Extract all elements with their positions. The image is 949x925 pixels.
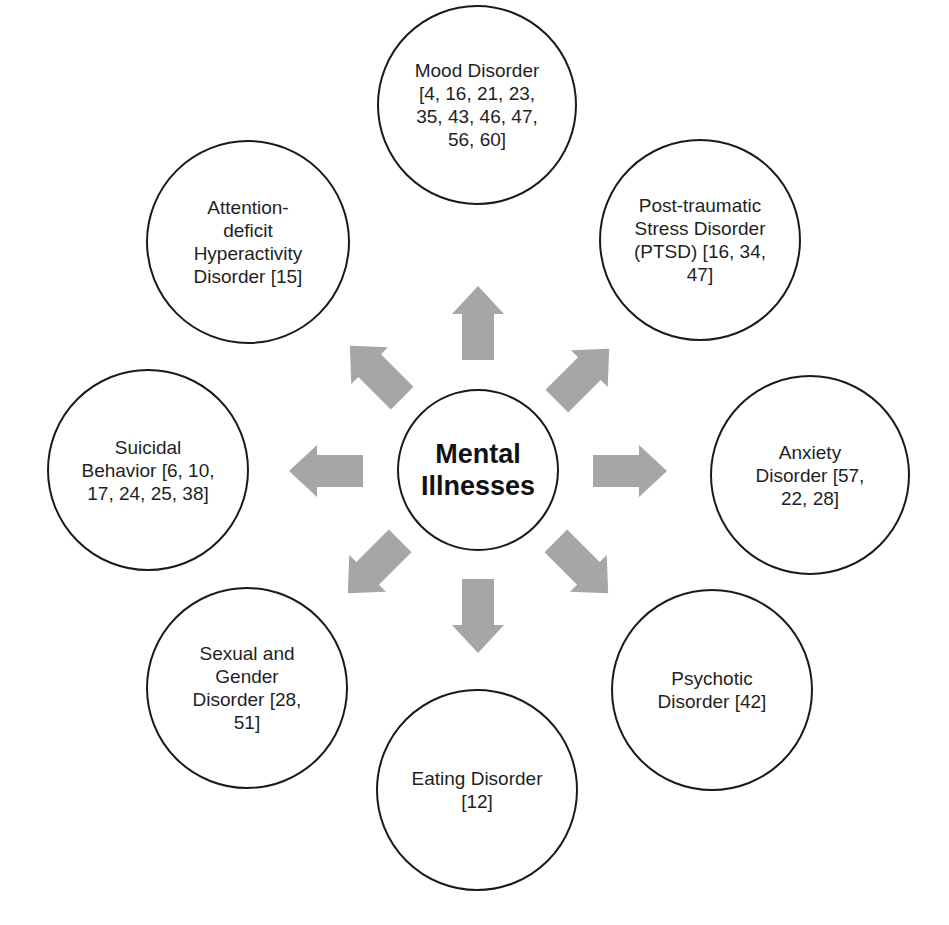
center-node-mental-illnesses-label: Mental Illnesses: [407, 438, 549, 502]
mental-illness-diagram: Mood Disorder [4, 16, 21, 23, 35, 43, 46…: [0, 0, 949, 925]
node-suicidal-label: Suicidal Behavior [6, 10, 17, 24, 25, 38…: [67, 436, 228, 505]
center-node-mental-illnesses: Mental Illnesses: [397, 389, 559, 551]
node-mood: Mood Disorder [4, 16, 21, 23, 35, 43, 46…: [377, 5, 577, 205]
node-adhd: Attention- deficit Hyperactivity Disorde…: [146, 140, 350, 344]
node-sexual-gender: Sexual and Gender Disorder [28, 51]: [146, 587, 348, 789]
arrow-to-mood: [452, 286, 504, 360]
arrow-to-ptsd: [538, 330, 627, 419]
node-sexual-gender-label: Sexual and Gender Disorder [28, 51]: [179, 642, 316, 734]
arrow-to-eating: [452, 579, 504, 653]
node-suicidal: Suicidal Behavior [6, 10, 17, 24, 25, 38…: [47, 369, 249, 571]
arrow-to-adhd: [331, 327, 420, 416]
node-eating: Eating Disorder [12]: [376, 689, 578, 891]
node-adhd-label: Attention- deficit Hyperactivity Disorde…: [180, 196, 317, 288]
node-eating-label: Eating Disorder [12]: [398, 767, 557, 813]
node-psychotic-label: Psychotic Disorder [42]: [644, 667, 781, 713]
arrow-to-anxiety: [593, 445, 667, 497]
arrow-to-psychotic: [537, 522, 626, 611]
node-anxiety: Anxiety Disorder [57, 22, 28]: [710, 375, 910, 575]
node-mood-label: Mood Disorder [4, 16, 21, 23, 35, 43, 46…: [401, 59, 554, 151]
arrow-to-suicidal: [289, 445, 363, 497]
arrow-to-sexual-gender: [329, 522, 418, 611]
node-anxiety-label: Anxiety Disorder [57, 22, 28]: [742, 441, 879, 510]
node-ptsd: Post-traumatic Stress Disorder (PTSD) [1…: [599, 139, 801, 341]
node-psychotic: Psychotic Disorder [42]: [611, 589, 813, 791]
node-ptsd-label: Post-traumatic Stress Disorder (PTSD) [1…: [620, 194, 780, 286]
